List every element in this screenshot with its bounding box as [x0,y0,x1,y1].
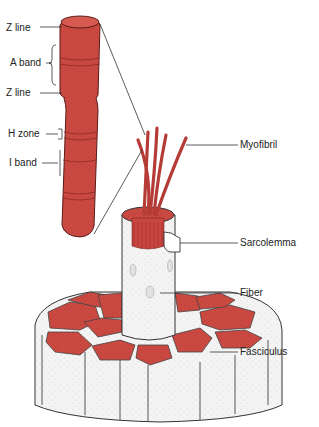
label-myofibril: Myofibril [240,140,277,150]
label-a-band: A band [10,58,41,68]
fiber-cylinder [122,207,180,340]
label-i-band: I band [9,158,37,168]
label-fiber: Fiber [240,288,263,298]
muscle-diagram [0,0,319,427]
label-z-line-bottom: Z line [6,88,30,98]
label-sarcolemma: Sarcolemma [240,238,296,248]
label-fasciculus: Fasciculus [240,347,287,357]
myofibril-enlarged [60,16,145,237]
label-h-zone: H zone [8,129,40,139]
myofibril-strands [138,128,186,215]
label-z-line-top: Z line [6,23,30,33]
